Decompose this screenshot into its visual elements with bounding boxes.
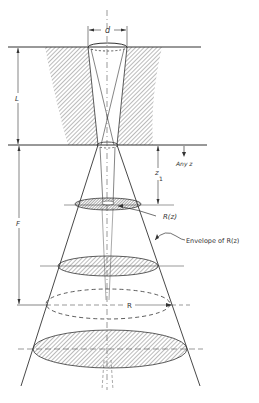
label-envelope: Envelope of R(z) [186,237,239,245]
envelope-callout: Envelope of R(z) [155,233,239,245]
spot-ellipse-R: R [46,289,192,319]
label-any-z: Any z [175,160,193,168]
spot-ellipse-3 [18,330,203,368]
label-z1-subscript: 1 [159,175,163,182]
label-R: R [127,302,132,310]
label-d: d [105,26,111,35]
dimension-z1: z 1 [153,146,165,204]
beam-envelope-diagram: d L F [0,0,259,403]
label-L: L [15,95,19,103]
any-z-indicator: Any z [175,146,193,168]
plate-hatched-region [45,47,162,145]
dimension-L: L [14,48,22,144]
label-Rz: R(z) [163,213,177,221]
dimension-F: F [15,146,48,305]
